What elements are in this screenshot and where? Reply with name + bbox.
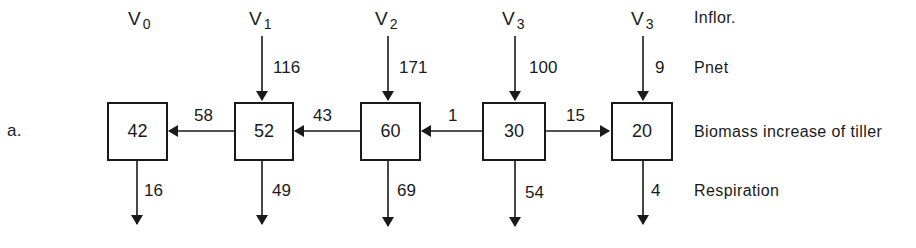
- biomass-box-v3b: 20: [611, 102, 673, 161]
- resp-value-v1: 49: [272, 181, 291, 201]
- transfer-value-52-42: 58: [194, 106, 213, 126]
- panel-label: a.: [7, 121, 22, 141]
- resp-value-v0: 16: [144, 181, 163, 201]
- biomass-box-v2: 60: [360, 102, 421, 161]
- stage-label-v0: V0: [128, 8, 150, 35]
- stage-label-v3b: V3: [631, 8, 653, 35]
- transfer-value-60-52: 43: [313, 106, 332, 126]
- biomass-box-v3a: 30: [482, 102, 546, 161]
- resp-value-v2: 69: [397, 181, 416, 201]
- resp-value-v3b: 4: [651, 181, 660, 201]
- row-label-biomass: Biomass increase of tiller: [694, 122, 882, 142]
- carbon-flow-diagram: a. V0 V1 V2 V3 V3 116 171 100 9 42 52 60…: [0, 0, 916, 248]
- row-label-pnet: Pnet: [694, 58, 729, 78]
- row-label-inflor: Inflor.: [694, 8, 736, 28]
- pnet-value-v3a: 100: [529, 58, 557, 78]
- stage-label-v2: V2: [375, 8, 397, 35]
- biomass-box-v1: 52: [234, 102, 294, 161]
- pnet-value-v3b: 9: [655, 58, 664, 78]
- resp-value-v3a: 54: [525, 183, 544, 203]
- pnet-value-v1: 116: [273, 58, 300, 78]
- pnet-value-v2: 171: [399, 58, 427, 78]
- row-label-respiration: Respiration: [694, 181, 779, 201]
- transfer-value-30-60: 1: [448, 106, 457, 126]
- stage-label-v3a: V3: [502, 8, 524, 35]
- transfer-value-30-20: 15: [566, 106, 585, 126]
- stage-label-v1: V1: [249, 8, 271, 35]
- biomass-box-v0: 42: [107, 102, 168, 161]
